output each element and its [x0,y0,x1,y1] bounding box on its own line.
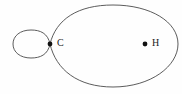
limacon-figure: C H [0,0,182,94]
point-marker-h [143,42,148,47]
point-label-h: H [152,38,159,48]
point-label-c: C [57,38,64,48]
point-marker-c [48,42,53,47]
inner-loop-path [13,30,50,58]
